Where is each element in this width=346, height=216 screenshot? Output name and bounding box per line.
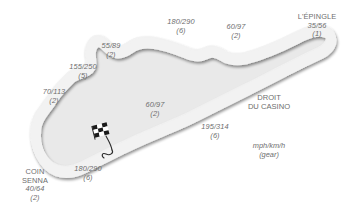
corner-gear: (2) [9, 194, 61, 203]
corner-gear: (2) [87, 51, 135, 60]
straight-name-line2: DU CASINO [236, 102, 302, 111]
corner-label-195-314: 195/314 (6) [188, 123, 242, 140]
corner-label-180-290-bottom: 180/290 (6) [61, 165, 115, 182]
corner-label-60-97-mid: 60/97 (2) [131, 101, 179, 118]
corner-gear: (2) [212, 32, 260, 41]
straight-name-line1: DROIT [236, 93, 302, 102]
corner-label-155-250: 155/250 (5) [57, 63, 109, 80]
corner-gear: (5) [57, 72, 109, 81]
straight-label-droit-du-casino: DROIT DU CASINO [236, 93, 302, 111]
corner-gear: (6) [61, 174, 115, 183]
circuit-map: L'ÉPINGLE 35/56 (1) 60/97 (2) 180/290 (6… [0, 0, 346, 216]
legend: mph/km/h (gear) [238, 142, 300, 160]
corner-label-55-89: 55/89 (2) [87, 42, 135, 59]
corner-gear: (1) [289, 30, 345, 39]
corner-label-coin-senna: COIN SENNA 40/64 (2) [9, 168, 61, 202]
corner-gear: (2) [29, 97, 79, 106]
corner-label-l-epingle: L'ÉPINGLE 35/56 (1) [289, 13, 345, 39]
legend-gear-note: (gear) [238, 151, 300, 160]
corner-gear: (6) [154, 27, 208, 36]
corner-label-180-290-top: 180/290 (6) [154, 18, 208, 35]
corner-label-70-113: 70/113 (2) [29, 88, 79, 105]
corner-gear: (2) [131, 110, 179, 119]
corner-gear: (6) [188, 132, 242, 141]
corner-label-60-97-top: 60/97 (2) [212, 23, 260, 40]
